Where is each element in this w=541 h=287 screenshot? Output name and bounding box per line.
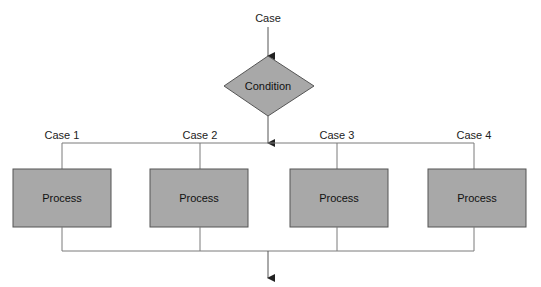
process-1-label: Process (42, 192, 82, 204)
process-3-label: Process (319, 192, 359, 204)
case-1-label: Case 1 (45, 129, 80, 141)
case-2-label: Case 2 (183, 129, 218, 141)
branch-case-2: Case 2 Process (150, 129, 248, 251)
process-2-label: Process (179, 192, 219, 204)
entry-label: Case (255, 12, 281, 24)
decision-node: Condition (224, 56, 314, 116)
case-4-label: Case 4 (457, 129, 492, 141)
branch-case-1: Case 1 Process (13, 129, 111, 251)
process-4-label: Process (457, 192, 497, 204)
branch-case-3: Case 3 Process (290, 129, 388, 251)
case-3-label: Case 3 (320, 129, 355, 141)
branch-case-4: Case 4 Process (428, 129, 526, 251)
decision-label: Condition (245, 80, 291, 92)
flowchart-diagram: Case Condition Case 1 Process Case 2 Pro… (0, 0, 541, 287)
